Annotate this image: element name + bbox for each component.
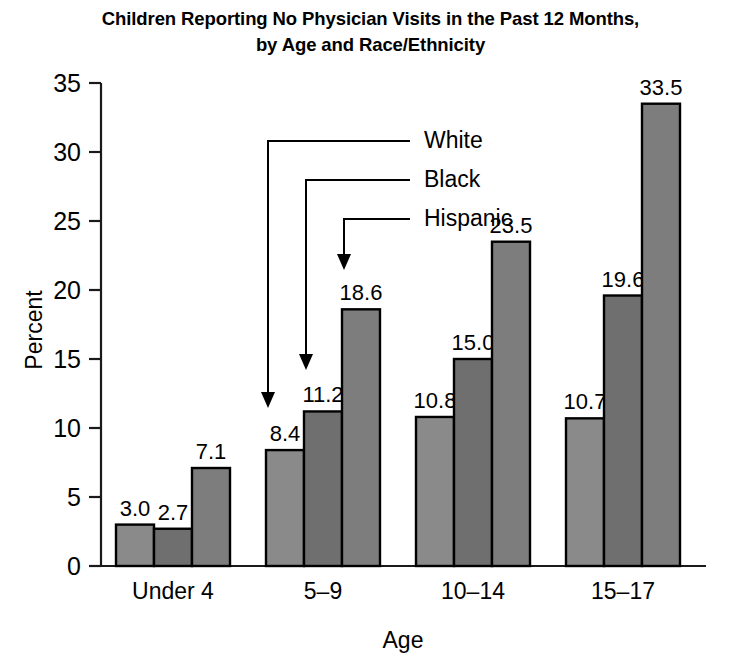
annotation-arrowhead-icon bbox=[337, 254, 351, 270]
chart-container: Children Reporting No Physician Visits i… bbox=[0, 0, 741, 666]
bar-value-label: 15.0 bbox=[452, 330, 495, 355]
bar-value-label: 10.8 bbox=[414, 388, 457, 413]
annotation-arrowhead-icon bbox=[261, 392, 275, 408]
bar bbox=[454, 359, 492, 566]
y-axis-title: Percent bbox=[21, 290, 47, 370]
annotation-arrowhead-icon bbox=[299, 354, 313, 370]
bar-value-label: 19.6 bbox=[602, 267, 645, 292]
bar bbox=[266, 450, 304, 566]
category-labels-layer: Under 45–910–1415–17 bbox=[132, 578, 655, 604]
y-axis-tick-label: 15 bbox=[53, 345, 81, 373]
bar-value-label: 11.2 bbox=[302, 382, 343, 407]
y-axis-tick-label: 5 bbox=[67, 483, 81, 511]
y-axis-tick-label: 0 bbox=[67, 552, 81, 580]
bar-value-label: 33.5 bbox=[640, 75, 683, 100]
bar bbox=[192, 468, 230, 566]
annotation-label: Black bbox=[424, 166, 481, 192]
bar bbox=[304, 411, 342, 566]
y-axis-tick-label: 35 bbox=[53, 69, 81, 97]
bar bbox=[416, 417, 454, 566]
y-axis-tick-label: 25 bbox=[53, 207, 81, 235]
bar-value-label: 7.1 bbox=[196, 439, 227, 464]
annotation-label: Hispanic bbox=[424, 205, 512, 231]
x-axis-title: Age bbox=[383, 627, 424, 653]
bar bbox=[154, 529, 192, 566]
bar bbox=[604, 296, 642, 566]
y-axis-tick-label: 30 bbox=[53, 138, 81, 166]
bar bbox=[492, 242, 530, 566]
bar-value-label: 18.6 bbox=[340, 280, 383, 305]
annotation-label: White bbox=[424, 127, 483, 153]
bar-value-label: 10.7 bbox=[564, 389, 607, 414]
bar-value-label: 8.4 bbox=[270, 421, 301, 446]
bar-value-label: 3.0 bbox=[120, 496, 151, 521]
x-axis-category-label: 10–14 bbox=[441, 578, 505, 604]
x-axis-category-label: 15–17 bbox=[591, 578, 655, 604]
y-axis-tick-label: 10 bbox=[53, 414, 81, 442]
annotation-leader-line bbox=[344, 219, 410, 258]
bar-chart-plot: Percent 05101520253035 3.02.77.18.411.21… bbox=[0, 0, 741, 666]
y-axis: 05101520253035 bbox=[53, 69, 101, 580]
y-axis-tick-label: 20 bbox=[53, 276, 81, 304]
bar bbox=[566, 418, 604, 566]
x-axis-category-label: Under 4 bbox=[132, 578, 214, 604]
bar-value-label: 2.7 bbox=[158, 500, 189, 525]
bars-layer: 3.02.77.18.411.218.610.815.023.510.719.6… bbox=[116, 75, 682, 566]
bar bbox=[116, 525, 154, 566]
x-axis-category-label: 5–9 bbox=[304, 578, 342, 604]
bar bbox=[642, 104, 680, 566]
bar bbox=[342, 309, 380, 566]
